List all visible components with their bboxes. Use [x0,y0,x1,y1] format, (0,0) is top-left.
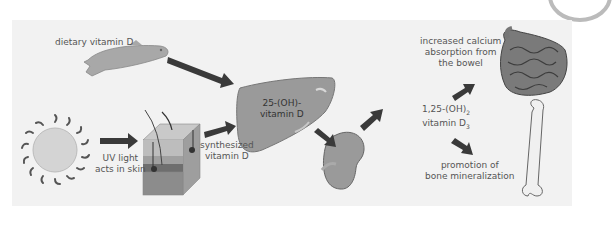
label-bone-mineralization: promotion of bone mineralization [425,160,515,182]
sun-icon [22,115,89,184]
femur-bone-icon [522,100,543,196]
label-calcium-absorption: increased calcium absorption from the bo… [420,36,501,69]
skin-block-icon [143,110,200,195]
label-1-25-oh2-vitamin-d3: 1,25-(OH)2 vitamin D3 [422,104,470,132]
label-25-oh-vitamin-d: 25-(OH)- vitamin D [260,98,304,120]
intestine-icon [500,28,567,95]
label-synthesized-vitamin-d: synthesized vitamin D [200,140,254,162]
label-dietary-vitamin-d: dietary vitamin D [55,37,133,48]
label-uv-light: UV light acts in skin [95,153,146,175]
